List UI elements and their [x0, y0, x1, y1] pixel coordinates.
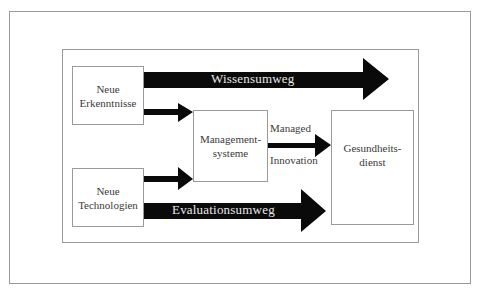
- node-neue-technologien: Neue Technologien: [72, 168, 144, 227]
- node-label-line1: Neue: [78, 184, 138, 198]
- node-label-line1: Gesundheits-: [343, 141, 401, 155]
- node-neue-erkenntnisse: Neue Erkenntnisse: [72, 66, 144, 125]
- erkenntnisse-to-management-arrow: [143, 103, 193, 122]
- managed-innovation-label-top: Managed: [270, 122, 311, 134]
- wissensumweg-label: Wissensumweg: [211, 71, 294, 87]
- technologien-to-management-arrow: [143, 167, 193, 190]
- evaluationsumweg-label: Evaluationsumweg: [172, 202, 275, 218]
- node-label-line2: Erkenntnisse: [80, 96, 137, 110]
- node-label-line2: Technologien: [78, 198, 138, 212]
- node-gesundheitsdienst: Gesundheits- dienst: [331, 110, 414, 225]
- node-label-line2: systeme: [200, 146, 261, 160]
- node-managementsysteme: Management- systeme: [193, 110, 268, 182]
- node-label-line1: Neue: [80, 82, 137, 96]
- node-label-line1: Management-: [200, 132, 261, 146]
- managed-innovation-label-bottom: Innovation: [270, 154, 318, 166]
- node-label-line2: dienst: [343, 155, 401, 169]
